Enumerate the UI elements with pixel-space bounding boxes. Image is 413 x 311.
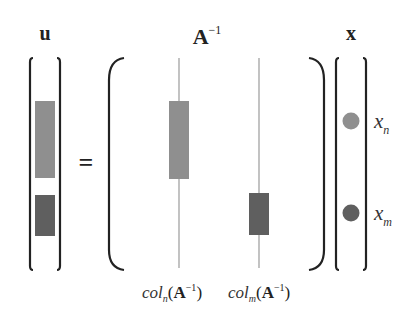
u-block-n [35,101,55,178]
equals-sign: = [79,148,94,177]
x-m-dot [343,205,360,222]
column-n [169,58,189,268]
col-n-block [169,101,189,179]
diagram-canvas: u = A−1 coln(A−1) colm(A−1) x [0,0,413,311]
u-block-m [35,195,55,236]
u-label: u [39,22,50,44]
col-m-label: colm(A−1) [228,282,290,304]
a-inverse-label: A−1 [193,23,222,49]
col-m-block [249,193,269,235]
a-inverse-brackets [109,58,324,270]
col-n-label: coln(A−1) [142,282,202,304]
a-label: A [193,24,209,49]
x-vector-brackets [336,58,366,270]
x-label: x [346,22,356,44]
x-n-dot [343,113,360,130]
a-exponent: −1 [209,23,222,37]
x-n-label: xn [373,109,389,137]
column-m [249,58,269,268]
x-m-label: xm [373,201,392,229]
